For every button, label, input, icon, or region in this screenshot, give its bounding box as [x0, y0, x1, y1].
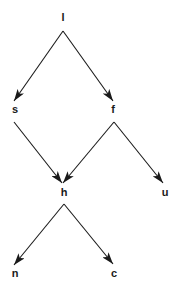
node-h: h	[61, 186, 68, 198]
edge-l-to-s	[14, 31, 63, 101]
directed-graph-diagram: lsfhunc	[0, 0, 178, 297]
node-f: f	[111, 103, 115, 115]
edge-f-to-h	[63, 122, 114, 183]
node-l: l	[61, 11, 64, 23]
edge-f-to-u	[114, 122, 163, 183]
edge-s-to-h	[14, 122, 62, 183]
node-u: u	[162, 186, 169, 198]
edge-h-to-n	[14, 204, 64, 265]
edge-h-to-c	[64, 204, 113, 264]
node-s: s	[12, 103, 18, 115]
node-c: c	[111, 267, 117, 279]
edges-group	[14, 31, 163, 265]
edge-l-to-f	[63, 31, 113, 101]
node-n: n	[12, 267, 19, 279]
